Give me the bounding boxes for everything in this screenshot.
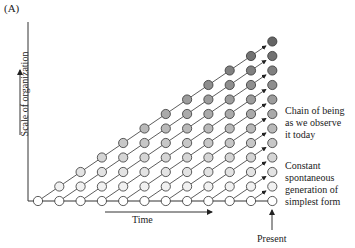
organism-node xyxy=(33,196,42,205)
organism-node xyxy=(183,138,192,147)
organism-node xyxy=(119,138,128,147)
organism-node xyxy=(140,153,149,162)
organism-node xyxy=(246,138,255,147)
organism-node xyxy=(268,167,277,176)
organism-node xyxy=(204,182,213,191)
constant-generation-annotation: Constant spontaneous generation of simpl… xyxy=(285,160,355,208)
organism-node xyxy=(76,196,85,205)
organism-node xyxy=(225,138,234,147)
organism-node xyxy=(140,196,149,205)
organism-node xyxy=(183,182,192,191)
annotation-line: as we observe xyxy=(285,117,355,129)
organism-node xyxy=(246,124,255,133)
organism-node xyxy=(246,80,255,89)
organism-node xyxy=(246,95,255,104)
organism-node xyxy=(161,196,170,205)
organism-node xyxy=(268,37,277,46)
organism-node xyxy=(183,95,192,104)
annotation-line: generation of xyxy=(285,184,355,196)
organism-node xyxy=(204,124,213,133)
annotation-line: it today xyxy=(285,129,355,141)
organism-node xyxy=(225,124,234,133)
organism-node xyxy=(204,95,213,104)
organism-node xyxy=(183,153,192,162)
organism-node xyxy=(140,124,149,133)
organism-node xyxy=(268,182,277,191)
organism-node xyxy=(140,182,149,191)
organism-node xyxy=(225,109,234,118)
organism-node xyxy=(161,167,170,176)
organism-node xyxy=(268,66,277,75)
organism-node xyxy=(97,153,106,162)
organism-node xyxy=(204,196,213,205)
organism-node xyxy=(119,167,128,176)
organism-node xyxy=(183,124,192,133)
organism-node xyxy=(183,167,192,176)
annotation-line: simplest form xyxy=(285,196,355,208)
organism-node xyxy=(76,182,85,191)
organism-node xyxy=(268,51,277,60)
organism-node xyxy=(140,167,149,176)
organism-node xyxy=(225,167,234,176)
organism-node xyxy=(183,109,192,118)
annotation-line: spontaneous xyxy=(285,172,355,184)
chain-of-being-annotation: Chain of being as we observe it today xyxy=(285,105,355,141)
organism-node xyxy=(246,153,255,162)
organism-node xyxy=(268,109,277,118)
organism-node xyxy=(268,124,277,133)
organism-node xyxy=(225,182,234,191)
organism-node xyxy=(161,124,170,133)
lineage-line xyxy=(81,75,266,201)
x-axis-label: Time xyxy=(132,214,153,226)
organism-node xyxy=(268,153,277,162)
organism-node xyxy=(140,138,149,147)
present-label: Present xyxy=(257,233,286,245)
organism-node xyxy=(246,51,255,60)
organism-node xyxy=(246,182,255,191)
organism-node xyxy=(225,66,234,75)
organism-node xyxy=(76,167,85,176)
organism-node xyxy=(225,153,234,162)
organism-node xyxy=(161,138,170,147)
organism-node xyxy=(183,196,192,205)
organism-node xyxy=(161,182,170,191)
organism-node xyxy=(268,80,277,89)
organism-node xyxy=(268,95,277,104)
annotation-line: Chain of being xyxy=(285,105,355,117)
lineage-line xyxy=(208,162,266,201)
organism-node xyxy=(55,182,64,191)
organism-node xyxy=(161,153,170,162)
organism-node xyxy=(246,66,255,75)
organism-node xyxy=(225,196,234,205)
organism-node xyxy=(97,196,106,205)
organism-node xyxy=(246,196,255,205)
annotation-line: Constant xyxy=(285,160,355,172)
organism-node xyxy=(204,109,213,118)
organism-node xyxy=(204,167,213,176)
organism-node xyxy=(119,153,128,162)
organism-node xyxy=(204,138,213,147)
organism-node xyxy=(55,196,64,205)
organism-node xyxy=(204,153,213,162)
organism-node xyxy=(97,167,106,176)
organism-node xyxy=(225,80,234,89)
organism-node xyxy=(246,167,255,176)
organism-node xyxy=(119,182,128,191)
organism-node xyxy=(161,109,170,118)
organism-node xyxy=(268,196,277,205)
organism-node xyxy=(268,138,277,147)
organism-node xyxy=(204,80,213,89)
organism-node xyxy=(246,109,255,118)
organism-node xyxy=(119,196,128,205)
organism-node xyxy=(225,95,234,104)
organism-node xyxy=(97,182,106,191)
